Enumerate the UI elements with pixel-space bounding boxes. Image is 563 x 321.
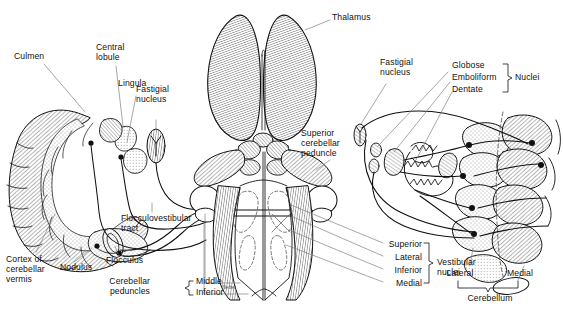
label-flocculovestibular-tract: Flocculovestibular tract (121, 213, 192, 233)
label-peduncle-inferior: Inferior (196, 287, 224, 297)
label-fastigial-nucleus-right: Fastigial nucleus (380, 57, 413, 77)
cerebellum-figure: Culmen Central lobule Lingula Fastigial … (0, 0, 563, 321)
left-cerebellum-sagittal (7, 110, 300, 272)
label-cerebellum-medial: Medial (500, 268, 540, 278)
label-culmen: Culmen (14, 51, 44, 61)
label-central-lobule: Central lobule (96, 42, 124, 62)
label-nucleus-globose: Globose (452, 60, 485, 70)
label-cerebellum-lateral: Lateral (440, 268, 480, 278)
fastigial-nucleus-left (147, 129, 165, 163)
label-flocculus: Flocculus (106, 255, 143, 265)
label-cerebellar-peduncles: Cerebellar peduncles (86, 276, 150, 296)
label-vestibular-medial: Medial (334, 278, 422, 288)
label-vestibular-lateral: Lateral (334, 252, 422, 262)
label-vestibular-inferior: Inferior (334, 265, 422, 275)
label-thalamus: Thalamus (332, 12, 371, 22)
emboliform-nucleus (384, 149, 404, 176)
label-peduncle-middle: Middle (196, 276, 222, 286)
label-fastigial-nucleus-left: Fastigial nucleus (136, 84, 169, 104)
globose-nucleus (371, 143, 382, 157)
label-nucleus-emboliform: Emboliform (452, 72, 496, 82)
label-nuclei-bracket-title: Nuclei (515, 72, 539, 82)
label-vestibular-superior: Superior (334, 239, 422, 249)
artist-signature: Netter (222, 284, 236, 290)
label-cortex-of-cerebellar-vermis: Cortex of cerebellar vermis (6, 254, 45, 285)
fastigial-nucleus-right (354, 124, 366, 146)
label-nucleus-dentate: Dentate (452, 84, 483, 94)
label-nodulus: Nodulus (60, 262, 92, 272)
label-superior-cerebellar-peduncle: Superior cerebellar peduncle (301, 128, 340, 159)
label-cerebellum: Cerebellum (452, 293, 528, 303)
